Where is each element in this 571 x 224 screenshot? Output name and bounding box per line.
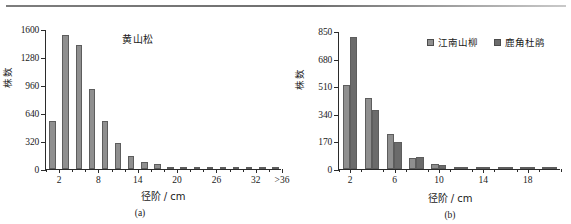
- x-minor-tick: [282, 169, 283, 172]
- y-tick-mark: [41, 30, 46, 31]
- x-tick-mark: [350, 169, 351, 173]
- bar: [461, 167, 468, 169]
- chart-a-bars: [46, 30, 281, 169]
- bar: [128, 156, 135, 169]
- x-minor-tick: [450, 169, 451, 172]
- y-tick-mark: [41, 142, 46, 143]
- chart-b-plot-area: 0170340510680850 26101418: [338, 32, 560, 170]
- x-tick-mark: [483, 169, 484, 173]
- bar: [207, 167, 214, 169]
- x-minor-tick: [85, 169, 86, 172]
- bar: [154, 164, 161, 169]
- chart-a-caption: (a): [135, 208, 146, 218]
- x-minor-tick: [138, 169, 139, 172]
- chart-a-x-axis-label: 径阶 / cm: [141, 188, 186, 203]
- x-minor-tick: [190, 169, 191, 172]
- chart-b-bars: [339, 32, 560, 169]
- y-tick-mark: [334, 115, 339, 116]
- panel-b: 江南山柳鹿角杜鹃 株数 0170340510680850 26101418 径阶…: [290, 10, 571, 224]
- x-minor-tick: [383, 169, 384, 172]
- y-tick-label: 640: [25, 109, 39, 119]
- bar: [372, 110, 379, 169]
- y-tick-mark: [334, 60, 339, 61]
- x-tick-label: 20: [172, 175, 182, 185]
- bar: [167, 167, 174, 169]
- bar: [141, 162, 148, 169]
- x-minor-tick: [494, 169, 495, 172]
- chart-b-x-axis-label: 径阶 / cm: [428, 190, 473, 205]
- bar: [350, 37, 357, 169]
- x-minor-tick: [216, 169, 217, 172]
- x-tick-label: 8: [96, 175, 101, 185]
- x-minor-tick: [561, 169, 562, 172]
- x-tick-mark: [528, 169, 529, 173]
- bar: [365, 98, 372, 169]
- x-tick-label: 2: [57, 175, 62, 185]
- x-minor-tick: [256, 169, 257, 172]
- chart-b-y-axis-label: 株数: [292, 69, 306, 90]
- bar: [520, 167, 527, 169]
- x-minor-tick: [428, 169, 429, 172]
- bar: [180, 167, 187, 169]
- x-minor-tick: [164, 169, 165, 172]
- y-tick-mark: [334, 87, 339, 88]
- x-minor-tick: [151, 169, 152, 172]
- x-minor-tick: [230, 169, 231, 172]
- bar: [194, 167, 201, 169]
- bar: [76, 45, 83, 169]
- x-minor-tick: [472, 169, 473, 172]
- x-minor-tick: [177, 169, 178, 172]
- bar: [233, 167, 240, 169]
- y-tick-label: 850: [318, 27, 332, 37]
- x-tick-label: 14: [479, 175, 489, 185]
- x-tick-label: >36: [275, 175, 290, 185]
- x-minor-tick: [203, 169, 204, 172]
- x-tick-mark: [439, 169, 440, 173]
- bar: [246, 167, 253, 169]
- x-tick-label: 26: [212, 175, 222, 185]
- y-tick-label: 0: [327, 165, 332, 175]
- bar: [220, 167, 227, 169]
- y-tick-label: 0: [34, 165, 39, 175]
- bar: [498, 167, 505, 169]
- bar: [387, 134, 394, 169]
- x-minor-tick: [361, 169, 362, 172]
- y-tick-mark: [334, 32, 339, 33]
- y-tick-mark: [41, 86, 46, 87]
- chart-a-plot-area: 032064096012801600 2814202632>36: [45, 30, 281, 170]
- chart-a-y-axis-label: 株数: [0, 67, 14, 88]
- y-tick-label: 510: [318, 82, 332, 92]
- x-tick-label: 6: [392, 175, 397, 185]
- y-tick-label: 340: [318, 110, 332, 120]
- x-tick-label: 14: [133, 175, 143, 185]
- x-minor-tick: [112, 169, 113, 172]
- bar: [409, 158, 416, 169]
- bar: [62, 35, 69, 169]
- y-tick-mark: [334, 142, 339, 143]
- x-tick-mark: [395, 169, 396, 173]
- x-minor-tick: [269, 169, 270, 172]
- bar: [431, 164, 438, 169]
- x-minor-tick: [406, 169, 407, 172]
- y-tick-label: 1600: [21, 25, 39, 35]
- panel-a: 黄山松 株数 032064096012801600 2814202632>36 …: [0, 10, 290, 224]
- bar: [272, 167, 279, 169]
- x-tick-label: 18: [523, 175, 533, 185]
- y-tick-mark: [41, 58, 46, 59]
- x-tick-label: 32: [251, 175, 261, 185]
- bar: [454, 167, 461, 169]
- bar: [102, 121, 109, 169]
- x-tick-label: 2: [348, 175, 353, 185]
- bar: [115, 143, 122, 169]
- bar: [49, 121, 56, 169]
- x-minor-tick: [539, 169, 540, 172]
- x-minor-tick: [243, 169, 244, 172]
- x-minor-tick: [125, 169, 126, 172]
- x-minor-tick: [339, 169, 340, 172]
- bar: [89, 89, 96, 169]
- x-minor-tick: [98, 169, 99, 172]
- x-tick-label: 10: [434, 175, 444, 185]
- bar: [476, 167, 483, 169]
- y-tick-label: 1280: [21, 53, 39, 63]
- bar: [550, 167, 557, 169]
